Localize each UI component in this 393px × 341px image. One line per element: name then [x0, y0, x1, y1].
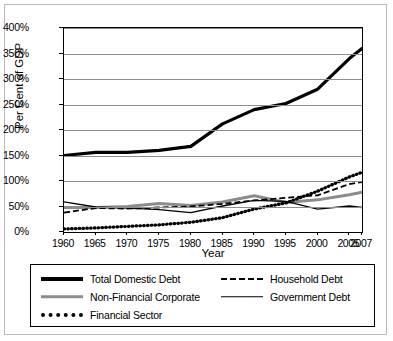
- x-axis-label: Year: [63, 247, 363, 259]
- legend-swatch-total-domestic-debt: [41, 274, 83, 284]
- legend-swatch-government-debt: [221, 292, 263, 302]
- y-axis-tick-label: 100%: [0, 174, 29, 186]
- legend-item-household-debt: Household Debt: [221, 270, 343, 287]
- y-axis-tick-label: 400%: [0, 21, 29, 33]
- legend-item-non-financial-corporate: Non-Financial Corporate: [41, 288, 200, 305]
- legend-swatch-non-financial-corporate: [41, 292, 83, 302]
- gridline: [64, 181, 362, 182]
- gridline: [64, 156, 362, 157]
- y-axis-tick-label: 350%: [0, 47, 29, 59]
- legend-label-total-domestic-debt: Total Domestic Debt: [90, 273, 180, 285]
- y-axis-tick-label: 150%: [0, 149, 29, 161]
- legend-item-government-debt: Government Debt: [221, 288, 350, 305]
- plot-area: [63, 27, 363, 233]
- gridline: [64, 207, 362, 208]
- y-axis-tick-label: 300%: [0, 72, 29, 84]
- legend-label-household-debt: Household Debt: [270, 273, 343, 285]
- legend-label-government-debt: Government Debt: [270, 291, 350, 303]
- legend-label-financial-sector: Financial Sector: [90, 309, 162, 321]
- figure-outer-frame: Per Cent of GDP 400%350%300%250%200%150%…: [4, 4, 387, 335]
- y-axis-tick-label: 50%: [0, 200, 29, 212]
- gridline: [64, 105, 362, 106]
- legend-swatch-household-debt: [221, 274, 263, 284]
- gridline: [64, 54, 362, 55]
- legend-swatch-financial-sector: [41, 310, 83, 320]
- series-line-total-domestic-debt: [64, 48, 362, 155]
- legend-item-financial-sector: Financial Sector: [41, 306, 162, 323]
- legend: Total Domestic Debt Household Debt Non-F…: [30, 264, 375, 327]
- y-axis-tick-label: 200%: [0, 123, 29, 135]
- legend-label-non-financial-corporate: Non-Financial Corporate: [90, 291, 200, 303]
- gridline: [64, 130, 362, 131]
- y-axis-tick-label: 250%: [0, 98, 29, 110]
- chart-panel: Per Cent of GDP 400%350%300%250%200%150%…: [15, 11, 381, 261]
- y-axis-tick-label: 0%: [0, 225, 29, 237]
- legend-item-total-domestic-debt: Total Domestic Debt: [41, 270, 180, 287]
- gridline: [64, 28, 362, 29]
- gridline: [64, 79, 362, 80]
